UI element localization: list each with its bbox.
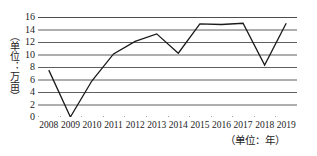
y-axis-tick-label: 10 xyxy=(17,50,35,60)
plot-svg xyxy=(38,17,297,117)
x-axis-ticks xyxy=(39,117,298,118)
x-axis-unit-label: （单位：年） xyxy=(196,134,314,147)
y-axis-tick-label: 12 xyxy=(17,37,35,47)
y-axis-tick-label: 8 xyxy=(17,62,35,72)
data-series-line xyxy=(49,23,286,117)
plot-area xyxy=(38,17,297,117)
y-axis-tick-label: 0 xyxy=(17,112,35,122)
gridlines xyxy=(38,18,297,118)
y-axis-tick-label: 14 xyxy=(17,25,35,35)
x-axis-tick-label: 2019 xyxy=(271,119,301,131)
y-axis-tick-label: 4 xyxy=(17,87,35,97)
y-axis-tick-label: 6 xyxy=(17,75,35,85)
y-axis-tick-label: 16 xyxy=(17,12,35,22)
x-axis-tick-labels: 2008200920102011201220132014201520162017… xyxy=(38,119,297,133)
line-chart-figure: （单位：万亩） 0246810121416 200820092010201120… xyxy=(0,0,317,156)
y-axis-tick-label: 2 xyxy=(17,100,35,110)
y-axis-tick-labels: 0246810121416 xyxy=(17,11,35,123)
